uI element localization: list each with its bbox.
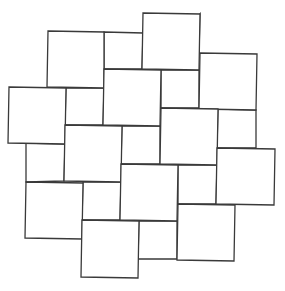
- large-square-A: [47, 31, 104, 88]
- large-square-D: [103, 69, 161, 126]
- large-square-H: [25, 182, 83, 239]
- tiling-diagram: [0, 0, 285, 291]
- large-square-G: [160, 108, 218, 165]
- large-square-J: [216, 148, 275, 205]
- small-square-g: [217, 109, 256, 148]
- small-square-f: [121, 126, 160, 164]
- small-square-e: [26, 143, 65, 182]
- large-square-F: [64, 125, 122, 182]
- small-square-c: [65, 88, 104, 125]
- large-square-L: [177, 204, 235, 261]
- small-square-i: [178, 165, 217, 204]
- large-square-B: [142, 13, 200, 70]
- small-square-h: [82, 182, 121, 220]
- large-square-C: [8, 87, 66, 144]
- small-square-j: [138, 221, 177, 259]
- large-square-I: [120, 164, 178, 221]
- small-square-d: [161, 70, 199, 108]
- small-square-a: [104, 32, 143, 69]
- large-square-K: [81, 220, 139, 278]
- large-square-E: [199, 53, 257, 110]
